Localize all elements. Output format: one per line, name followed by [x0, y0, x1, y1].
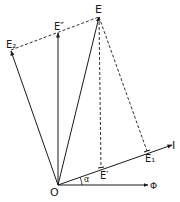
label-alpha: α — [84, 175, 89, 184]
label-i: I — [172, 139, 175, 152]
e2-vector — [11, 51, 58, 185]
alpha-arc — [80, 177, 82, 185]
label-e-prime: E′ — [100, 170, 109, 181]
current-vector-i — [58, 145, 172, 185]
dashed-e-to-e1 — [99, 17, 147, 151]
label-phi: Φ — [150, 181, 157, 191]
label-e-double-prime: E″ — [54, 21, 64, 32]
label-e: E — [95, 3, 102, 16]
e-prime-tick — [98, 167, 104, 168]
label-e2: E₂ — [6, 39, 16, 50]
phasor-diagram: E E″ E₂ E₁ E′ I O Φ α — [0, 0, 180, 202]
e-vector — [58, 17, 99, 185]
label-o: O — [50, 186, 59, 199]
dashed-e-to-e-prime — [99, 17, 101, 168]
label-e1: E₁ — [145, 153, 155, 164]
